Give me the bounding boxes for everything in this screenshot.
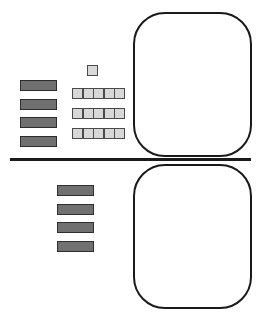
unit-cube[interactable] — [104, 128, 115, 139]
tens-rod[interactable] — [20, 117, 57, 128]
unit-cube[interactable] — [114, 128, 125, 139]
tens-rod[interactable] — [20, 136, 57, 147]
unit-cube[interactable] — [114, 88, 125, 99]
tens-rod[interactable] — [57, 185, 94, 196]
unit-cube[interactable] — [104, 88, 115, 99]
tens-rod[interactable] — [57, 241, 94, 252]
unit-cube[interactable] — [93, 88, 104, 99]
tens-rod[interactable] — [57, 222, 94, 233]
unit-cube[interactable] — [114, 108, 125, 119]
unit-cube[interactable] — [83, 88, 94, 99]
unit-cube[interactable] — [93, 128, 104, 139]
unit-cube[interactable] — [87, 65, 98, 76]
tens-rod[interactable] — [57, 204, 94, 215]
unit-cube[interactable] — [72, 128, 83, 139]
unit-cube[interactable] — [83, 108, 94, 119]
bottom-place-value-mat — [133, 164, 252, 309]
unit-cube[interactable] — [72, 88, 83, 99]
section-divider — [10, 158, 251, 161]
top-place-value-mat — [133, 12, 252, 157]
tens-rod[interactable] — [20, 99, 57, 110]
tens-rod[interactable] — [20, 80, 57, 91]
unit-cube[interactable] — [104, 108, 115, 119]
unit-cube[interactable] — [83, 128, 94, 139]
unit-cube[interactable] — [93, 108, 104, 119]
unit-cube[interactable] — [72, 108, 83, 119]
